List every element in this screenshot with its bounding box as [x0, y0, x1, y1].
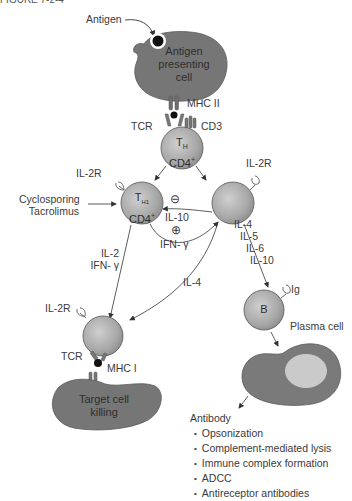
tcr-label-top: TCR — [131, 120, 153, 132]
apc-label: Antigen presenting cell — [152, 45, 216, 84]
cytotoxic-t-cell — [83, 316, 123, 356]
th2-output-il5: IL-5 — [240, 230, 258, 242]
antibody-item: Complement-mediated lysis — [190, 441, 331, 456]
th-label-sub: H — [183, 143, 188, 150]
th1-il2r-receptor — [116, 182, 124, 190]
il10-label: IL-10 — [165, 211, 189, 223]
th-label-sup: + — [191, 156, 195, 163]
ctl-il2r-label: IL-2R — [45, 302, 71, 314]
plasma-nucleus — [285, 354, 327, 388]
th1-label-sup: + — [151, 212, 155, 219]
th2-output-il4: IL-4 — [234, 218, 252, 230]
target-cell-label: Target cell killing — [68, 393, 140, 419]
drug-label: Cyclosporing Tacrolimus — [19, 193, 79, 217]
th2-il2r-receptor — [250, 176, 259, 190]
th1-label-t: T — [135, 191, 142, 203]
il2r-right-label: IL-2R — [246, 157, 272, 169]
il4-to-ctl-label: IL-4 — [183, 276, 201, 288]
target-line1: Target cell — [68, 393, 140, 406]
arrow-plasma-to-antibody — [239, 396, 248, 408]
th1-label-cd4: CD4 — [129, 213, 151, 225]
th2-output-il6: IL-6 — [246, 242, 264, 254]
apc-label-line2: presenting — [152, 58, 216, 71]
th2-output-il10: IL-10 — [250, 254, 274, 266]
inhibit-symbol: ⊖ — [170, 193, 180, 205]
antigen-label: Antigen — [86, 13, 122, 25]
antibody-item: Antireceptor antibodies — [190, 486, 331, 501]
th1-outputs-label: IL-2 IFN- γ — [87, 247, 119, 271]
apc-label-line3: cell — [152, 71, 216, 84]
th-label-t: T — [176, 136, 183, 148]
th-cell-label: TH CD4+ — [166, 136, 198, 170]
enhance-symbol: ⊕ — [171, 224, 181, 236]
antigen-arrow — [125, 20, 154, 36]
tcr-label-bottom: TCR — [61, 350, 83, 362]
arrow-th-to-th1 — [155, 166, 166, 180]
drug-cyclosporin: Cyclosporing — [19, 193, 79, 205]
il2r-left-label: IL-2R — [76, 167, 102, 179]
target-line2: killing — [68, 406, 140, 419]
antibody-heading: Antibody — [190, 411, 331, 426]
b-cell-label: B — [254, 303, 274, 316]
ifn-gamma-center-label: IFN- γ — [160, 238, 189, 250]
ctl-il2r-receptor — [77, 308, 86, 318]
mhc2-label: MHC II — [187, 97, 220, 109]
th-label-cd4: CD4 — [169, 157, 191, 169]
presented-antigen — [171, 112, 178, 119]
th1-label-sub: H1 — [142, 199, 150, 205]
th1-cell-label: TH1 CD4+ — [126, 191, 158, 226]
mhc1-antigen — [94, 359, 102, 367]
antibody-functions-list: Antibody Opsonization Complement-mediate… — [190, 411, 331, 501]
figure-caption-cutoff: FIGURE 7-2-4 — [0, 0, 64, 5]
antibody-item: Immune complex formation — [190, 456, 331, 471]
ig-receptor — [281, 285, 290, 298]
th1-output-ifn: IFN- γ — [87, 259, 119, 271]
drug-tacrolimus: Tacrolimus — [19, 205, 79, 217]
th1-output-il2: IL-2 — [87, 247, 119, 259]
cd3-label: CD3 — [201, 120, 222, 132]
antibody-item: Opsonization — [190, 426, 331, 441]
arrow-th1-to-ctl — [110, 225, 131, 318]
mhc1-label: MHC I — [107, 362, 137, 374]
ig-label: Ig — [291, 283, 300, 295]
plasma-cell-label: Plasma cell — [290, 320, 344, 332]
apc-label-line1: Antigen — [152, 45, 216, 58]
arrow-b-to-plasma — [271, 332, 278, 346]
antibody-item: ADCC — [190, 471, 331, 486]
tcr-cd3-complex — [165, 114, 196, 128]
